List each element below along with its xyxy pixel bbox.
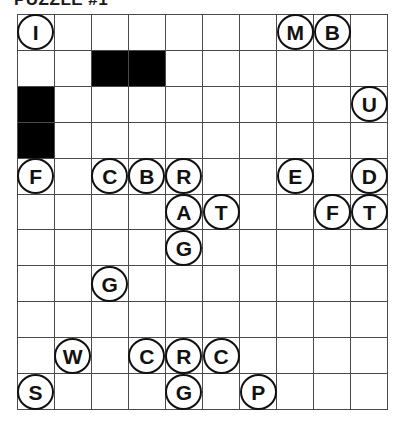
letter-token[interactable]: I bbox=[17, 14, 54, 50]
grid-cell[interactable] bbox=[18, 51, 55, 87]
grid-cell[interactable] bbox=[55, 195, 92, 231]
grid-cell[interactable] bbox=[55, 374, 92, 410]
grid-cell[interactable] bbox=[277, 374, 314, 410]
grid-cell-blocked[interactable] bbox=[18, 87, 55, 123]
grid-cell[interactable] bbox=[240, 15, 277, 51]
grid-cell[interactable] bbox=[92, 123, 129, 159]
grid-cell[interactable] bbox=[92, 338, 129, 374]
letter-token[interactable]: U bbox=[351, 86, 388, 122]
grid-cell[interactable] bbox=[240, 302, 277, 338]
letter-token[interactable]: G bbox=[91, 266, 128, 302]
grid-cell[interactable] bbox=[55, 302, 92, 338]
grid-cell[interactable] bbox=[166, 51, 203, 87]
grid-cell[interactable] bbox=[203, 51, 240, 87]
grid-cell[interactable] bbox=[277, 195, 314, 231]
grid-cell[interactable] bbox=[203, 87, 240, 123]
grid-cell[interactable] bbox=[166, 266, 203, 302]
letter-token[interactable]: P bbox=[240, 374, 277, 410]
grid-cell[interactable] bbox=[55, 15, 92, 51]
grid-cell-blocked[interactable] bbox=[92, 51, 129, 87]
grid-cell[interactable] bbox=[314, 159, 351, 195]
grid-cell[interactable] bbox=[351, 15, 388, 51]
grid-cell-blocked[interactable] bbox=[18, 123, 55, 159]
grid-cell[interactable] bbox=[277, 87, 314, 123]
grid-cell[interactable] bbox=[240, 230, 277, 266]
grid-cell[interactable] bbox=[129, 266, 166, 302]
grid-cell[interactable] bbox=[203, 374, 240, 410]
letter-token[interactable]: F bbox=[314, 194, 351, 230]
grid-cell[interactable] bbox=[55, 87, 92, 123]
grid-cell[interactable] bbox=[18, 195, 55, 231]
letter-token[interactable]: M bbox=[277, 14, 314, 50]
grid-cell[interactable] bbox=[129, 374, 166, 410]
grid-cell[interactable] bbox=[351, 302, 388, 338]
grid-cell[interactable] bbox=[314, 374, 351, 410]
letter-token[interactable]: W bbox=[54, 338, 91, 374]
grid-cell[interactable] bbox=[351, 230, 388, 266]
grid-cell-blocked[interactable] bbox=[129, 51, 166, 87]
grid-cell[interactable] bbox=[351, 338, 388, 374]
grid-cell[interactable] bbox=[203, 266, 240, 302]
grid-cell[interactable] bbox=[240, 195, 277, 231]
grid-cell[interactable] bbox=[277, 302, 314, 338]
letter-token[interactable]: D bbox=[351, 158, 388, 194]
grid-cell[interactable] bbox=[277, 230, 314, 266]
grid-cell[interactable] bbox=[166, 15, 203, 51]
grid-cell[interactable] bbox=[55, 230, 92, 266]
grid-cell[interactable] bbox=[314, 266, 351, 302]
grid-cell[interactable] bbox=[129, 195, 166, 231]
grid-cell[interactable] bbox=[92, 230, 129, 266]
letter-token[interactable]: F bbox=[17, 158, 54, 194]
grid-cell[interactable] bbox=[129, 15, 166, 51]
grid-cell[interactable] bbox=[351, 374, 388, 410]
grid-cell[interactable] bbox=[55, 159, 92, 195]
grid-cell[interactable] bbox=[203, 302, 240, 338]
grid-cell[interactable] bbox=[203, 230, 240, 266]
grid-cell[interactable] bbox=[166, 302, 203, 338]
grid-cell[interactable] bbox=[314, 123, 351, 159]
grid-cell[interactable] bbox=[129, 87, 166, 123]
grid-cell[interactable] bbox=[240, 51, 277, 87]
letter-token[interactable]: B bbox=[314, 14, 351, 50]
letter-token[interactable]: C bbox=[91, 158, 128, 194]
letter-token[interactable]: E bbox=[277, 158, 314, 194]
grid-cell[interactable] bbox=[240, 123, 277, 159]
grid-cell[interactable] bbox=[92, 195, 129, 231]
grid-cell[interactable] bbox=[240, 87, 277, 123]
grid-cell[interactable] bbox=[314, 230, 351, 266]
grid-cell[interactable] bbox=[314, 87, 351, 123]
grid-cell[interactable] bbox=[18, 302, 55, 338]
grid-cell[interactable] bbox=[203, 15, 240, 51]
letter-token[interactable]: S bbox=[17, 374, 54, 410]
grid-cell[interactable] bbox=[18, 338, 55, 374]
grid-cell[interactable] bbox=[314, 302, 351, 338]
grid-cell[interactable] bbox=[314, 338, 351, 374]
letter-token[interactable]: T bbox=[203, 194, 240, 230]
grid-cell[interactable] bbox=[18, 266, 55, 302]
grid-cell[interactable] bbox=[351, 123, 388, 159]
grid-cell[interactable] bbox=[203, 159, 240, 195]
grid-cell[interactable] bbox=[129, 302, 166, 338]
grid-cell[interactable] bbox=[55, 51, 92, 87]
grid-cell[interactable] bbox=[277, 338, 314, 374]
grid-cell[interactable] bbox=[240, 338, 277, 374]
grid-cell[interactable] bbox=[129, 230, 166, 266]
grid-cell[interactable] bbox=[277, 123, 314, 159]
grid-cell[interactable] bbox=[277, 266, 314, 302]
grid-cell[interactable] bbox=[166, 87, 203, 123]
grid-cell[interactable] bbox=[92, 302, 129, 338]
grid-cell[interactable] bbox=[351, 266, 388, 302]
grid-cell[interactable] bbox=[55, 123, 92, 159]
grid-cell[interactable] bbox=[92, 15, 129, 51]
grid-cell[interactable] bbox=[203, 123, 240, 159]
grid-cell[interactable] bbox=[18, 230, 55, 266]
grid-cell[interactable] bbox=[92, 87, 129, 123]
grid-cell[interactable] bbox=[129, 123, 166, 159]
grid-cell[interactable] bbox=[240, 266, 277, 302]
grid-cell[interactable] bbox=[92, 374, 129, 410]
grid-cell[interactable] bbox=[351, 51, 388, 87]
grid-cell[interactable] bbox=[314, 51, 351, 87]
grid-cell[interactable] bbox=[166, 123, 203, 159]
letter-token[interactable]: C bbox=[203, 338, 240, 374]
grid-cell[interactable] bbox=[55, 266, 92, 302]
